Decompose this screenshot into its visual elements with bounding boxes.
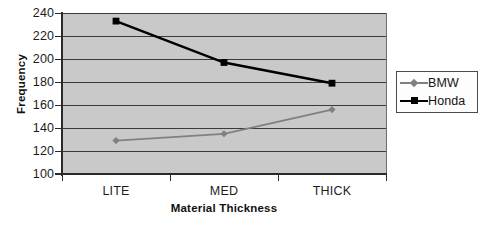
y-axis-tick bbox=[55, 174, 62, 175]
legend-entry-honda: Honda bbox=[400, 92, 476, 110]
y-axis-tick bbox=[55, 105, 62, 106]
gridline bbox=[62, 36, 386, 37]
y-axis-tick-label: 240 bbox=[8, 7, 54, 19]
gridline bbox=[62, 59, 386, 60]
legend-label-bmw: BMW bbox=[428, 77, 459, 90]
y-axis-title: Frequency bbox=[15, 29, 27, 139]
x-axis-tick bbox=[62, 174, 63, 181]
x-axis-category-label: MED bbox=[179, 184, 269, 198]
y-axis-tick bbox=[55, 36, 62, 37]
y-axis-tick bbox=[55, 151, 62, 152]
x-axis-category-label: LITE bbox=[71, 184, 161, 198]
legend-label-honda: Honda bbox=[428, 95, 465, 108]
legend: BMW Honda bbox=[396, 71, 478, 113]
y-axis-tick bbox=[55, 82, 62, 83]
y-axis-tick-label: 100 bbox=[8, 168, 54, 180]
line-chart-figure: 240220200180160140120100 LITEMEDTHICK Fr… bbox=[0, 0, 485, 227]
y-axis-tick bbox=[55, 13, 62, 14]
y-axis-tick bbox=[55, 128, 62, 129]
legend-swatch-honda bbox=[400, 95, 428, 107]
square-marker-icon bbox=[411, 97, 418, 104]
diamond-marker-icon bbox=[410, 79, 418, 87]
gridline bbox=[62, 13, 386, 14]
x-axis-title: Material Thickness bbox=[62, 202, 386, 214]
gridline bbox=[62, 151, 386, 152]
x-axis-category-label: THICK bbox=[287, 184, 377, 198]
gridline bbox=[62, 82, 386, 83]
x-axis-tick bbox=[170, 174, 171, 181]
gridline bbox=[62, 128, 386, 129]
y-axis-tick-label: 120 bbox=[8, 145, 54, 157]
x-axis-tick bbox=[386, 174, 387, 181]
y-axis-tick bbox=[55, 59, 62, 60]
x-axis-tick bbox=[278, 174, 279, 181]
x-axis-line bbox=[55, 173, 387, 175]
y-axis-tick-labels: 240220200180160140120100 bbox=[2, 0, 54, 227]
gridline bbox=[62, 105, 386, 106]
legend-swatch-bmw bbox=[400, 77, 428, 89]
legend-entry-bmw: BMW bbox=[400, 74, 476, 92]
